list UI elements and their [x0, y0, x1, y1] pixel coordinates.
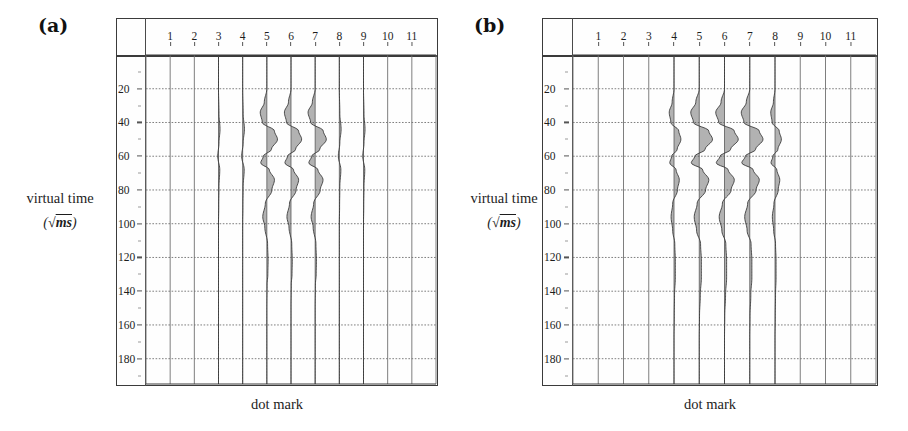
- panel-a-ylabel: virtual time (√ms): [8, 188, 112, 233]
- paren-close: ): [516, 215, 521, 230]
- dot-mark-tick-8: 8: [336, 30, 342, 46]
- radical-icon: √: [48, 215, 56, 230]
- virtual-time-tick-100: 100: [544, 218, 561, 230]
- dot-mark-tick-line: [291, 42, 292, 46]
- dot-mark-tick-line: [598, 42, 599, 46]
- virtual-time-tick-mark: [137, 156, 142, 157]
- virtual-time-minor-tick: [565, 139, 568, 140]
- dot-mark-tick-6: 6: [288, 30, 294, 46]
- panel-a-ylabel-text: virtual time: [26, 190, 93, 206]
- dot-mark-tick-4: 4: [240, 30, 246, 46]
- dot-mark-tick-line: [724, 42, 725, 46]
- virtual-time-tick-60: 60: [544, 150, 556, 162]
- dot-mark-tick-line: [674, 42, 675, 46]
- virtual-time-tick-mark: [137, 291, 142, 292]
- panel-a-plot: 1234567891011 20406080100120140160180: [116, 18, 438, 386]
- dot-mark-tick-line: [825, 42, 826, 46]
- dot-mark-tick-line: [800, 42, 801, 46]
- virtual-time-minor-tick: [565, 240, 568, 241]
- panel-b-xlabel: dot mark: [542, 396, 878, 413]
- dot-mark-tick-7: 7: [312, 30, 318, 46]
- virtual-time-tick-80: 80: [544, 184, 556, 196]
- panel-a: (a) virtual time (√ms) 1234567891011 204…: [0, 0, 454, 431]
- virtual-time-tick-mark: [564, 88, 569, 89]
- virtual-time-tick-mark: [564, 122, 569, 123]
- figure-container: (a) virtual time (√ms) 1234567891011 204…: [0, 0, 908, 431]
- panel-b-plot: 1234567891011 20406080100120140160180: [542, 18, 878, 386]
- virtual-time-minor-tick: [138, 71, 141, 72]
- dot-mark-tick-label: 6: [722, 30, 728, 42]
- virtual-time-tick-mark: [137, 324, 142, 325]
- dot-mark-tick-line: [363, 42, 364, 46]
- dot-mark-tick-label: 5: [696, 30, 702, 42]
- dot-mark-tick-2: 2: [191, 30, 197, 46]
- dot-mark-tick-label: 1: [167, 30, 173, 42]
- dot-mark-tick-line: [699, 42, 700, 46]
- virtual-time-minor-tick: [138, 308, 141, 309]
- virtual-time-tick-mark: [564, 223, 569, 224]
- virtual-time-tick-80: 80: [118, 184, 130, 196]
- dot-mark-tick-label: 2: [191, 30, 197, 42]
- virtual-time-minor-tick: [565, 274, 568, 275]
- virtual-time-tick-20: 20: [118, 83, 130, 95]
- panel-a-ylabel-unit: (√ms): [8, 212, 112, 233]
- dot-mark-tick-9: 9: [797, 30, 803, 46]
- paren-close: ): [72, 215, 77, 230]
- panel-a-grid: [116, 18, 438, 386]
- dot-mark-tick-7: 7: [747, 30, 753, 46]
- virtual-time-tick-mark: [137, 223, 142, 224]
- virtual-time-tick-120: 120: [118, 251, 135, 263]
- dot-mark-tick-label: 1: [595, 30, 601, 42]
- virtual-time-tick-180: 180: [118, 353, 135, 365]
- dot-mark-tick-label: 4: [671, 30, 677, 42]
- virtual-time-tick-mark: [564, 156, 569, 157]
- dot-mark-tick-label: 6: [288, 30, 294, 42]
- dot-mark-tick-label: 5: [264, 30, 270, 42]
- virtual-time-tick-mark: [137, 88, 142, 89]
- virtual-time-minor-tick: [565, 71, 568, 72]
- virtual-time-tick-180: 180: [544, 353, 561, 365]
- dot-mark-tick-line: [623, 42, 624, 46]
- dot-mark-tick-8: 8: [772, 30, 778, 46]
- virtual-time-minor-tick: [565, 206, 568, 207]
- virtual-time-tick-20: 20: [544, 83, 556, 95]
- virtual-time-minor-tick: [565, 173, 568, 174]
- virtual-time-minor-tick: [138, 375, 141, 376]
- dot-mark-tick-line: [194, 42, 195, 46]
- virtual-time-minor-tick: [138, 240, 141, 241]
- dot-mark-tick-label: 11: [406, 30, 417, 42]
- virtual-time-tick-mark: [564, 257, 569, 258]
- virtual-time-tick-40: 40: [544, 116, 556, 128]
- dot-mark-tick-label: 7: [747, 30, 753, 42]
- virtual-time-tick-40: 40: [118, 116, 130, 128]
- panel-a-xlabel: dot mark: [116, 396, 438, 413]
- virtual-time-tick-mark: [137, 122, 142, 123]
- dot-mark-tick-line: [218, 42, 219, 46]
- dot-mark-tick-label: 3: [216, 30, 222, 42]
- dot-mark-tick-line: [266, 42, 267, 46]
- dot-mark-tick-line: [387, 42, 388, 46]
- panel-b-ylabel-text: virtual time: [470, 190, 537, 206]
- virtual-time-minor-tick: [138, 173, 141, 174]
- dot-mark-tick-line: [775, 42, 776, 46]
- virtual-time-tick-60: 60: [118, 150, 130, 162]
- panel-b-grid: [542, 18, 878, 386]
- dot-mark-tick-label: 9: [361, 30, 367, 42]
- virtual-time-tick-mark: [137, 257, 142, 258]
- virtual-time-tick-mark: [564, 189, 569, 190]
- dot-mark-tick-label: 3: [646, 30, 652, 42]
- dot-mark-tick-line: [749, 42, 750, 46]
- dot-mark-tick-line: [315, 42, 316, 46]
- virtual-time-tick-mark: [564, 358, 569, 359]
- virtual-time-minor-tick: [565, 105, 568, 106]
- dot-mark-tick-label: 4: [240, 30, 246, 42]
- virtual-time-tick-120: 120: [544, 251, 561, 263]
- unit-value: ms: [56, 215, 72, 230]
- dot-mark-tick-line: [170, 42, 171, 46]
- dot-mark-tick-label: 2: [621, 30, 627, 42]
- dot-mark-tick-4: 4: [671, 30, 677, 46]
- dot-mark-tick-5: 5: [264, 30, 270, 46]
- virtual-time-minor-tick: [138, 105, 141, 106]
- unit-value: ms: [500, 215, 516, 230]
- virtual-time-minor-tick: [565, 308, 568, 309]
